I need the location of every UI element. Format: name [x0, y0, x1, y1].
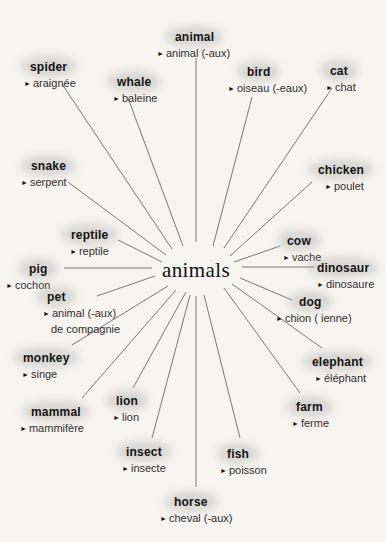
english-word-text: lion — [116, 394, 138, 408]
english-word-text: mammal — [31, 405, 81, 419]
arrow-bullet-icon: ► — [6, 282, 13, 289]
french-translation: ►reptile — [70, 245, 109, 259]
french-text: cheval (-aux) — [169, 512, 233, 524]
vocab-entry-animal: animal►animal (-aux) — [175, 27, 230, 61]
english-word-text: farm — [296, 400, 323, 414]
french-text: animal (-aux) — [52, 307, 116, 319]
connector-line-dog — [240, 278, 292, 300]
english-word-text: spider — [30, 60, 67, 74]
vocab-entry-spider: spider►araignée — [30, 57, 76, 91]
english-word-text: bird — [247, 65, 270, 79]
english-word-text: monkey — [23, 351, 70, 365]
english-word-text: cat — [330, 64, 348, 78]
english-word: bird — [247, 66, 270, 79]
french-translation: ►baleine — [113, 92, 157, 106]
french-text: chat — [335, 81, 356, 93]
arrow-bullet-icon: ► — [113, 414, 120, 421]
english-word: cow — [287, 235, 311, 248]
center-topic: animals — [162, 258, 230, 283]
french-translation: ►poulet — [325, 180, 364, 194]
french-text: ferme — [301, 417, 329, 429]
vocab-entry-elephant: elephant►éléphant — [312, 352, 366, 386]
english-word: chicken — [318, 164, 364, 177]
french-translation: ►éléphant — [315, 372, 366, 386]
english-word-text: fish — [227, 447, 249, 461]
french-text: baleine — [122, 92, 157, 104]
french-translation: ►lion — [113, 411, 139, 425]
arrow-bullet-icon: ► — [283, 254, 290, 261]
arrow-bullet-icon: ► — [292, 420, 299, 427]
vocab-entry-monkey: monkey►singe — [23, 348, 70, 382]
french-translation: ►animal (-aux) — [157, 47, 230, 61]
english-word: elephant — [312, 356, 363, 369]
vocab-entry-cat: cat►chat — [330, 61, 356, 95]
french-text: chion ( ienne) — [285, 312, 352, 324]
french-translation: ►cheval (-aux) — [160, 512, 233, 526]
vocab-entry-bird: bird►oiseau (-eaux) — [247, 62, 307, 96]
arrow-bullet-icon: ► — [315, 375, 322, 382]
french-translation: ►singe — [22, 368, 70, 382]
french-text: dinosaure — [326, 278, 374, 290]
connector-line-fish — [204, 295, 240, 438]
french-text: oiseau (-eaux) — [237, 82, 307, 94]
french-text: serpent — [30, 176, 67, 188]
arrow-bullet-icon: ► — [276, 315, 283, 322]
english-word: lion — [116, 395, 138, 408]
connector-line-insect — [152, 295, 190, 438]
arrow-bullet-icon: ► — [317, 281, 324, 288]
arrow-bullet-icon: ► — [220, 467, 227, 474]
english-word: fish — [227, 448, 249, 461]
arrow-bullet-icon: ► — [326, 84, 333, 91]
mind-map: animals animal►animal (-aux)spider►araig… — [0, 0, 386, 542]
connector-line-bird — [213, 97, 252, 246]
arrow-bullet-icon: ► — [228, 85, 235, 92]
vocab-entry-insect: insect►insecte — [126, 442, 166, 476]
french-text: mammifère — [29, 422, 84, 434]
english-word: animal — [175, 31, 214, 44]
english-word: horse — [174, 496, 208, 509]
vocab-entry-whale: whale►baleine — [117, 72, 157, 106]
french-text: reptile — [79, 245, 109, 257]
french-text: insecte — [131, 462, 166, 474]
english-word: insect — [126, 446, 162, 459]
english-word: farm — [296, 401, 323, 414]
english-word: reptile — [71, 229, 108, 242]
vocab-entry-dinosaur: dinosaur►dinosaure — [317, 258, 374, 292]
french-text: poisson — [229, 464, 267, 476]
french-text: éléphant — [324, 372, 366, 384]
french-translation: ►araignée — [24, 77, 76, 91]
english-word-text: animal — [175, 30, 214, 44]
english-word-text: reptile — [71, 228, 108, 242]
arrow-bullet-icon: ► — [24, 80, 31, 87]
english-word: dinosaur — [317, 262, 369, 275]
english-word-text: dinosaur — [317, 261, 369, 275]
arrow-bullet-icon: ► — [20, 425, 27, 432]
french-translation: ►insecte — [122, 462, 166, 476]
vocab-entry-mammal: mammal►mammifère — [31, 402, 84, 436]
english-word: monkey — [23, 352, 70, 365]
english-word-text: elephant — [312, 355, 363, 369]
arrow-bullet-icon: ► — [122, 465, 129, 472]
french-translation: ►chion ( ienne) — [276, 312, 352, 326]
vocab-entry-pet: pet►animal (-aux)de compagnie — [47, 287, 120, 335]
arrow-bullet-icon: ► — [160, 515, 167, 522]
french-translation: de compagnie — [51, 323, 120, 335]
french-translation: ►dinosaure — [317, 278, 374, 292]
english-word: pet — [47, 291, 66, 304]
english-word-text: pig — [29, 262, 48, 276]
english-word-text: chicken — [318, 163, 364, 177]
vocab-entry-snake: snake►serpent — [31, 156, 67, 190]
french-text: animal (-aux) — [166, 47, 230, 59]
french-text: de compagnie — [51, 323, 120, 335]
english-word-text: horse — [174, 495, 208, 509]
french-text: poulet — [334, 180, 364, 192]
arrow-bullet-icon: ► — [157, 50, 164, 57]
arrow-bullet-icon: ► — [113, 95, 120, 102]
connector-line-reptile — [118, 240, 162, 262]
english-word-text: pet — [47, 290, 66, 304]
vocab-entry-lion: lion►lion — [116, 391, 139, 425]
french-translation: ►serpent — [21, 176, 67, 190]
french-translation: ►poisson — [220, 464, 267, 478]
english-word: snake — [31, 160, 66, 173]
arrow-bullet-icon: ► — [43, 310, 50, 317]
